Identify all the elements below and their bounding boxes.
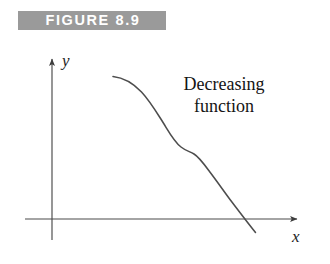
y-axis-label: y	[62, 52, 70, 69]
figure-page: FIGURE 8.9 y x Decreasing function	[0, 0, 330, 264]
curve-annotation: Decreasing function	[156, 74, 292, 118]
annotation-line-2: function	[156, 96, 292, 118]
x-axis-label: x	[292, 228, 300, 245]
annotation-line-1: Decreasing	[156, 74, 292, 96]
graph-plot-area	[0, 0, 330, 264]
